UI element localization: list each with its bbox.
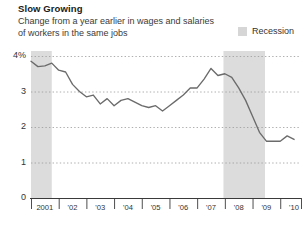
x-axis-label: 2001 [31, 203, 59, 212]
y-axis-label: 1 [0, 157, 26, 167]
x-axis-label: '06 [169, 203, 197, 212]
x-axis-label: '10 [280, 203, 308, 212]
chart-container: Slow Growing Change from a year earlier … [0, 0, 308, 227]
x-axis-label: '04 [114, 203, 142, 212]
recession-band [31, 51, 52, 198]
y-axis-label: 4% [0, 50, 26, 60]
x-axis-label: '07 [197, 203, 225, 212]
y-axis-label: 3 [0, 86, 26, 96]
chart-plot-area [0, 0, 308, 227]
x-axis-label: '08 [225, 203, 253, 212]
x-axis-label: '05 [142, 203, 170, 212]
x-axis-label: '03 [86, 203, 114, 212]
y-axis-label: 2 [0, 121, 26, 131]
recession-band [223, 51, 265, 198]
y-axis-label: 0 [0, 192, 26, 202]
x-axis-label: '02 [59, 203, 87, 212]
x-axis-label: '09 [252, 203, 280, 212]
